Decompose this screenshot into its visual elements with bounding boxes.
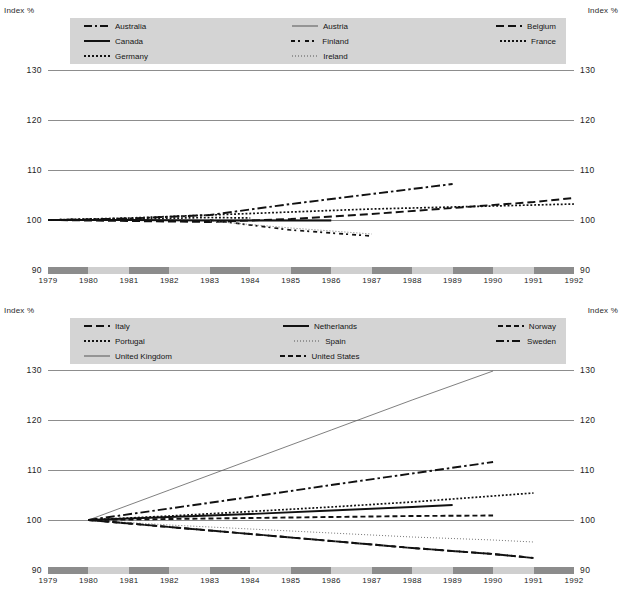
x-tick-1989: 1989 — [443, 576, 462, 585]
x-tick-1985: 1985 — [281, 576, 300, 585]
x-axis-band-segment — [291, 567, 331, 574]
x-axis-band-segment — [412, 267, 452, 274]
x-axis-band-segment — [210, 267, 250, 274]
series-layer — [48, 318, 574, 570]
x-axis-band — [48, 267, 574, 274]
y-tick-l-110: 110 — [27, 165, 42, 175]
x-axis-band-segment — [48, 267, 88, 274]
series-layer — [48, 18, 574, 270]
x-axis-band-segment — [88, 267, 128, 274]
x-tick-1990: 1990 — [484, 576, 503, 585]
x-axis-band-segment — [331, 267, 371, 274]
x-axis-band-segment — [372, 267, 412, 274]
x-axis-band-segment — [250, 567, 290, 574]
x-axis-band-segment — [372, 567, 412, 574]
chart-panel-top: Index % Index % 909010010011011012012013… — [0, 0, 622, 300]
x-axis-band — [48, 567, 574, 574]
y-tick-r-100: 100 — [580, 215, 595, 225]
y-tick-r-120: 120 — [580, 115, 595, 125]
x-axis-band-segment — [493, 267, 533, 274]
y-axis-title-right: Index % — [588, 6, 618, 15]
x-axis-band-segment — [412, 567, 452, 574]
x-tick-1988: 1988 — [403, 276, 422, 285]
x-axis-band-segment — [453, 567, 493, 574]
x-tick-1985: 1985 — [281, 276, 300, 285]
series-line-australia — [48, 184, 453, 220]
y-axis-title-left-2: Index % — [4, 306, 34, 315]
x-tick-1987: 1987 — [362, 576, 381, 585]
x-axis-band-segment — [534, 567, 574, 574]
x-tick-1981: 1981 — [119, 576, 138, 585]
x-axis-labels: 1979198019811982198319841985198619871988… — [48, 576, 574, 588]
series-line-ireland — [210, 221, 372, 234]
x-axis-band-segment — [331, 567, 371, 574]
x-axis-band-segment — [129, 567, 169, 574]
y-tick-r-90: 90 — [580, 265, 590, 275]
x-tick-1982: 1982 — [160, 576, 179, 585]
y-tick-l-110: 110 — [27, 465, 42, 475]
x-tick-1980: 1980 — [79, 576, 98, 585]
x-axis-band-segment — [453, 267, 493, 274]
x-tick-1990: 1990 — [484, 276, 503, 285]
x-tick-1980: 1980 — [79, 276, 98, 285]
x-axis-band-segment — [169, 267, 209, 274]
series-line-united-kingdom — [88, 371, 493, 520]
x-axis-band-segment — [88, 567, 128, 574]
x-tick-1979: 1979 — [39, 576, 58, 585]
plot-box-bottom: 9090100100110110120120130130ItalyNetherl… — [48, 318, 574, 570]
y-axis-title-left: Index % — [4, 6, 34, 15]
x-tick-1992: 1992 — [565, 576, 584, 585]
x-tick-1982: 1982 — [160, 276, 179, 285]
y-tick-l-90: 90 — [32, 265, 42, 275]
y-tick-l-130: 130 — [27, 65, 42, 75]
y-tick-r-120: 120 — [580, 415, 595, 425]
x-tick-1988: 1988 — [403, 576, 422, 585]
x-axis-labels: 1979198019811982198319841985198619871988… — [48, 276, 574, 288]
x-axis-band-segment — [250, 267, 290, 274]
x-tick-1984: 1984 — [241, 576, 260, 585]
x-tick-1991: 1991 — [524, 576, 543, 585]
x-axis-band-segment — [48, 567, 88, 574]
plot-box-top: 9090100100110110120120130130AustraliaAus… — [48, 18, 574, 270]
y-tick-r-130: 130 — [580, 65, 595, 75]
y-tick-r-110: 110 — [580, 165, 595, 175]
x-axis-band-segment — [169, 567, 209, 574]
y-tick-r-90: 90 — [580, 565, 590, 575]
x-tick-1987: 1987 — [362, 276, 381, 285]
x-axis-band-segment — [129, 267, 169, 274]
y-tick-r-130: 130 — [580, 365, 595, 375]
chart-panel-bottom: Index % Index % 909010010011011012012013… — [0, 300, 622, 603]
plot-area-top: 9090100100110110120120130130AustraliaAus… — [48, 18, 574, 270]
y-tick-l-120: 120 — [27, 415, 42, 425]
x-tick-1989: 1989 — [443, 276, 462, 285]
x-axis-band-segment — [291, 267, 331, 274]
y-tick-l-100: 100 — [27, 215, 42, 225]
x-tick-1986: 1986 — [322, 576, 341, 585]
plot-area-bottom: 9090100100110110120120130130ItalyNetherl… — [48, 318, 574, 570]
x-tick-1983: 1983 — [200, 576, 219, 585]
x-tick-1979: 1979 — [39, 276, 58, 285]
y-tick-l-100: 100 — [27, 515, 42, 525]
x-tick-1984: 1984 — [241, 276, 260, 285]
x-axis-band-segment — [493, 567, 533, 574]
x-tick-1991: 1991 — [524, 276, 543, 285]
y-axis-title-right-2: Index % — [588, 306, 618, 315]
y-tick-r-110: 110 — [580, 465, 595, 475]
y-tick-r-100: 100 — [580, 515, 595, 525]
y-tick-l-130: 130 — [27, 365, 42, 375]
x-tick-1981: 1981 — [119, 276, 138, 285]
x-axis-band-segment — [210, 567, 250, 574]
y-tick-l-90: 90 — [32, 565, 42, 575]
y-tick-l-120: 120 — [27, 115, 42, 125]
x-axis-band-segment — [534, 267, 574, 274]
x-tick-1983: 1983 — [200, 276, 219, 285]
x-tick-1986: 1986 — [322, 276, 341, 285]
x-tick-1992: 1992 — [565, 276, 584, 285]
